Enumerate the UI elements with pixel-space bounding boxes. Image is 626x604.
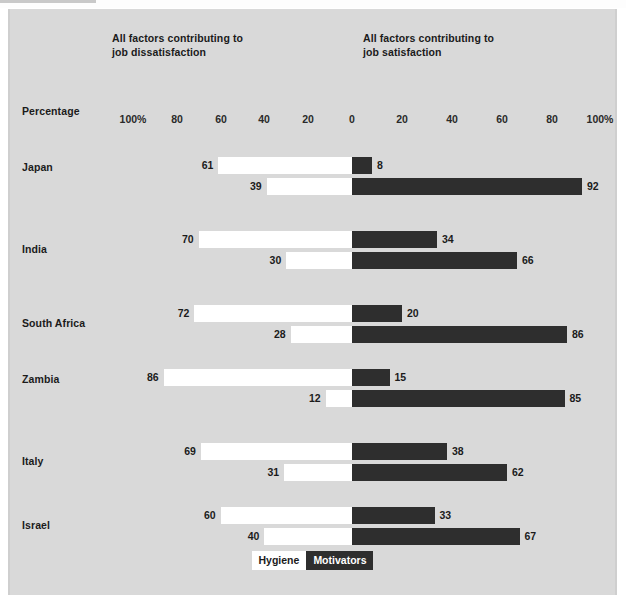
bar-value-satisfaction: 67 xyxy=(525,530,537,542)
bar-value-satisfaction: 86 xyxy=(572,328,584,340)
bar-line: 3066 xyxy=(8,252,617,269)
bar-line: 8615 xyxy=(8,369,617,386)
x-tick-2: 60 xyxy=(215,113,227,125)
page-top-strip xyxy=(0,0,626,8)
column-header-satisfaction: All factors contributing to job satisfac… xyxy=(363,32,543,59)
x-tick-6: 20 xyxy=(396,113,408,125)
bar-value-satisfaction: 20 xyxy=(407,307,419,319)
chart-row: Zambia86151285 xyxy=(8,369,617,407)
bar-dissatisfaction-motivators: 86 xyxy=(164,369,352,386)
x-tick-0: 100% xyxy=(120,113,147,125)
bar-value-satisfaction: 34 xyxy=(442,233,454,245)
chart-row: South Africa72202886 xyxy=(8,305,617,343)
bar-line: 2886 xyxy=(8,326,617,343)
bar-value-dissatisfaction: 12 xyxy=(309,392,321,404)
bar-satisfaction-hygiene: 66 xyxy=(352,252,517,269)
bar-satisfaction-hygiene: 86 xyxy=(352,326,567,343)
bar-value-satisfaction: 38 xyxy=(452,445,464,457)
chart-page: All factors contributing to job dissatis… xyxy=(0,0,626,604)
bar-value-dissatisfaction: 60 xyxy=(204,509,216,521)
chart-row: Italy69383162 xyxy=(8,443,617,481)
bar-line: 6033 xyxy=(8,507,617,524)
bar-satisfaction-motivators: 33 xyxy=(352,507,435,524)
bar-dissatisfaction-motivators: 72 xyxy=(194,305,352,322)
chart-row: Japan6183992 xyxy=(8,157,617,195)
x-tick-3: 40 xyxy=(258,113,270,125)
bar-satisfaction-hygiene: 92 xyxy=(352,178,582,195)
bar-value-dissatisfaction: 30 xyxy=(270,254,282,266)
x-tick-7: 40 xyxy=(446,113,458,125)
bar-value-dissatisfaction: 28 xyxy=(274,328,286,340)
bar-satisfaction-motivators: 38 xyxy=(352,443,447,460)
bar-satisfaction-motivators: 15 xyxy=(352,369,390,386)
chart-row: Israel60334067 xyxy=(8,507,617,545)
bar-dissatisfaction-hygiene: 40 xyxy=(264,528,352,545)
bar-value-satisfaction: 85 xyxy=(570,392,582,404)
bar-value-dissatisfaction: 31 xyxy=(267,466,279,478)
bar-value-dissatisfaction: 72 xyxy=(178,307,190,319)
bar-value-satisfaction: 92 xyxy=(587,180,599,192)
bar-line: 6938 xyxy=(8,443,617,460)
x-tick-9: 80 xyxy=(546,113,558,125)
x-tick-1: 80 xyxy=(171,113,183,125)
x-tick-10: 100% xyxy=(587,113,614,125)
bar-satisfaction-hygiene: 62 xyxy=(352,464,507,481)
bar-value-satisfaction: 15 xyxy=(395,371,407,383)
bar-dissatisfaction-motivators: 60 xyxy=(221,507,352,524)
bar-line: 3162 xyxy=(8,464,617,481)
bar-value-satisfaction: 8 xyxy=(377,159,383,171)
chart-legend: Hygiene Motivators xyxy=(8,551,617,570)
bar-value-satisfaction: 33 xyxy=(440,509,452,521)
bar-satisfaction-hygiene: 85 xyxy=(352,390,565,407)
legend-item-hygiene[interactable]: Hygiene xyxy=(252,551,307,570)
legend-item-motivators[interactable]: Motivators xyxy=(306,551,373,570)
page-top-tick xyxy=(0,0,96,3)
bar-value-dissatisfaction: 70 xyxy=(182,233,194,245)
bar-value-satisfaction: 62 xyxy=(512,466,524,478)
bar-dissatisfaction-hygiene: 31 xyxy=(284,464,352,481)
chart-row: India70343066 xyxy=(8,231,617,269)
chart-panel: All factors contributing to job dissatis… xyxy=(8,9,617,595)
bar-value-satisfaction: 66 xyxy=(522,254,534,266)
bar-line: 618 xyxy=(8,157,617,174)
bar-value-dissatisfaction: 40 xyxy=(248,530,260,542)
bar-value-dissatisfaction: 61 xyxy=(202,159,214,171)
bar-line: 3992 xyxy=(8,178,617,195)
column-header-dissatisfaction: All factors contributing to job dissatis… xyxy=(112,32,292,59)
bar-dissatisfaction-hygiene: 12 xyxy=(326,390,352,407)
bar-value-dissatisfaction: 69 xyxy=(184,445,196,457)
x-tick-4: 20 xyxy=(302,113,314,125)
bar-satisfaction-motivators: 8 xyxy=(352,157,372,174)
bar-satisfaction-motivators: 20 xyxy=(352,305,402,322)
bar-line: 7220 xyxy=(8,305,617,322)
bar-satisfaction-hygiene: 67 xyxy=(352,528,520,545)
bar-dissatisfaction-motivators: 61 xyxy=(218,157,352,174)
bar-dissatisfaction-motivators: 70 xyxy=(199,231,352,248)
bar-dissatisfaction-hygiene: 30 xyxy=(286,252,352,269)
axis-title-percentage: Percentage xyxy=(22,105,80,117)
x-tick-5: 0 xyxy=(349,113,355,125)
bar-line: 1285 xyxy=(8,390,617,407)
bar-line: 7034 xyxy=(8,231,617,248)
bar-dissatisfaction-motivators: 69 xyxy=(201,443,352,460)
bar-value-dissatisfaction: 86 xyxy=(147,371,159,383)
bar-dissatisfaction-hygiene: 28 xyxy=(291,326,352,343)
bar-value-dissatisfaction: 39 xyxy=(250,180,262,192)
bar-line: 4067 xyxy=(8,528,617,545)
x-tick-8: 60 xyxy=(496,113,508,125)
bar-dissatisfaction-hygiene: 39 xyxy=(267,178,352,195)
bar-satisfaction-motivators: 34 xyxy=(352,231,437,248)
